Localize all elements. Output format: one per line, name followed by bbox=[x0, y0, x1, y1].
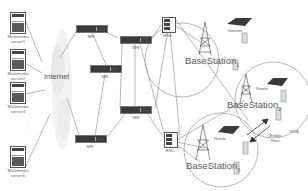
rnc-icon-1 bbox=[162, 17, 176, 33]
connection-lines bbox=[0, 0, 308, 191]
server-ellipsis: ...... bbox=[4, 118, 32, 136]
router-icon-3 bbox=[120, 36, 152, 44]
pda-label: PDA bbox=[290, 129, 299, 134]
pda-icon-2 bbox=[281, 90, 286, 102]
internet-label: Internet bbox=[44, 72, 69, 81]
rnc-label-2: RNC bbox=[163, 148, 177, 153]
router-icon-5 bbox=[75, 135, 107, 143]
pda-icon-3 bbox=[243, 142, 248, 154]
router-label-1: MR bbox=[85, 34, 97, 39]
server-label-2: Multimediaserver2 bbox=[4, 71, 32, 81]
router-label-2: MR bbox=[99, 74, 111, 79]
server-icon-1 bbox=[10, 12, 26, 34]
router-label-4: MR bbox=[130, 115, 142, 120]
server-label-1: Multimediaserver1 bbox=[4, 34, 32, 44]
tower-icon-3 bbox=[196, 125, 210, 160]
tower-icon-1 bbox=[199, 22, 211, 55]
notebook-label-2: Noteb bbox=[256, 86, 268, 91]
base-station-label-1: BaseStation1 bbox=[185, 55, 239, 68]
router-label-5: MR bbox=[84, 144, 96, 149]
notebook-label-1: Notebo bbox=[228, 28, 242, 33]
network-diagram: Multimediaserver1 Multimediaserver2 Mult… bbox=[0, 0, 308, 191]
server-icon-k bbox=[10, 146, 26, 168]
notebook-icon-1 bbox=[227, 18, 252, 26]
notebook-label-3: Noteb bbox=[214, 136, 226, 141]
rnc-icon-2 bbox=[164, 132, 178, 148]
rnc-label-1: RNC bbox=[161, 33, 175, 38]
base-station-label-3: BaseStation3 bbox=[186, 160, 240, 173]
pda-icon-1 bbox=[242, 33, 247, 43]
router-icon-2 bbox=[90, 65, 122, 73]
base-station-label-2: BaseStation2 bbox=[227, 99, 281, 112]
server-icon-2 bbox=[10, 49, 26, 71]
notebook-icon-3 bbox=[218, 126, 240, 134]
notebook-icon-2 bbox=[267, 78, 288, 86]
router-label-3: MR bbox=[130, 45, 142, 50]
router-icon-1 bbox=[76, 25, 108, 33]
server-icon-3 bbox=[10, 82, 26, 104]
router-icon-4 bbox=[120, 106, 152, 114]
server-label-k: Multimediaserverk bbox=[4, 168, 32, 178]
server-label-3: Multimediaserver3 bbox=[4, 104, 32, 114]
mobile-host-label: MobileHost bbox=[266, 133, 284, 143]
